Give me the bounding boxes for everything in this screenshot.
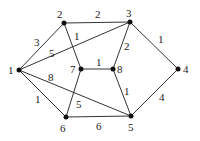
edge-weight-6-5: 6: [96, 120, 102, 132]
edge-weight-1-3: 5: [49, 47, 55, 59]
edge-3-4: [130, 22, 178, 69]
node-label-4: 4: [183, 63, 189, 75]
node-labels-group: 12345678: [8, 7, 189, 134]
node-label-1: 1: [8, 64, 14, 76]
edge-1-2: [19, 23, 64, 70]
node-label-3: 3: [126, 7, 132, 19]
edge-weight-2-3: 2: [95, 8, 101, 20]
node-8: [111, 67, 116, 72]
node-label-7: 7: [70, 63, 76, 75]
edge-weight-7-8: 1: [96, 56, 102, 68]
edge-weight-8-5: 1: [124, 85, 130, 97]
node-1: [17, 68, 22, 73]
node-6: [64, 115, 69, 120]
node-label-8: 8: [117, 63, 123, 75]
node-label-2: 2: [57, 8, 63, 20]
edge-weight-1-6: 1: [35, 93, 41, 105]
edge-weight-1-5: 8: [48, 71, 54, 83]
edge-weight-2-7: 1: [74, 30, 80, 42]
node-3: [128, 20, 133, 25]
node-4: [176, 67, 181, 72]
edges-group: [19, 22, 178, 117]
edge-weight-3-8: 2: [124, 40, 130, 52]
edge-weight-4-5: 4: [159, 91, 165, 103]
edge-1-6: [19, 70, 66, 117]
edge-weights-group: 3581212111465: [34, 8, 165, 132]
edge-weight-1-2: 3: [34, 36, 40, 48]
node-5: [129, 114, 134, 119]
edge-weight-3-4: 1: [158, 33, 164, 45]
weighted-graph-diagram: 3581212111465 12345678: [0, 0, 200, 141]
node-2: [62, 21, 67, 26]
edge-2-3: [64, 22, 130, 23]
node-label-6: 6: [60, 122, 66, 134]
edge-weight-6-7: 5: [76, 98, 82, 110]
edge-4-5: [131, 69, 178, 116]
node-7: [79, 67, 84, 72]
node-label-5: 5: [128, 121, 134, 133]
edge-6-5: [66, 116, 131, 117]
